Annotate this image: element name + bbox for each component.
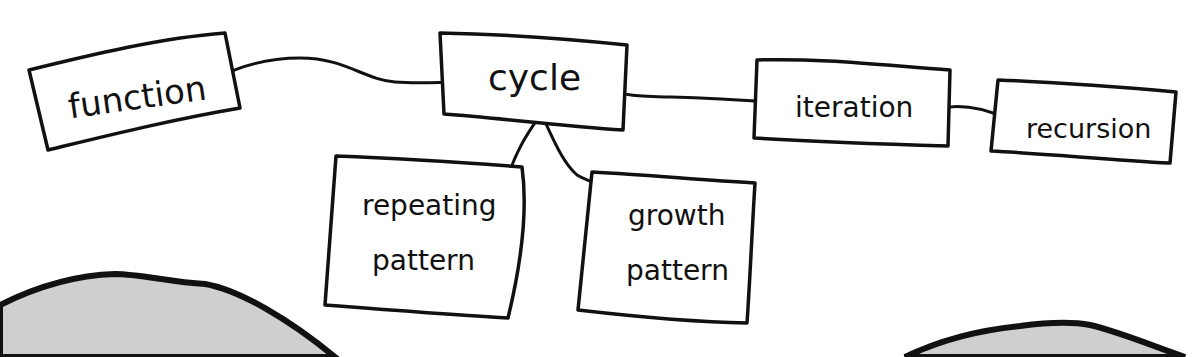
node-growth-pattern-label-line1: growth bbox=[628, 199, 725, 232]
node-repeating-pattern-label-line1: repeating bbox=[362, 189, 497, 222]
node-cycle-label: cycle bbox=[488, 57, 581, 98]
node-recursion-label: recursion bbox=[1026, 113, 1151, 144]
edge-cycle-iteration bbox=[608, 88, 770, 102]
right-hill-shape bbox=[905, 323, 1185, 357]
concept-map-canvas: function cycle iteration recursion repea… bbox=[0, 0, 1201, 357]
left-hill-shape bbox=[0, 274, 335, 357]
node-repeating-pattern-label-line2: pattern bbox=[372, 244, 475, 277]
node-growth-pattern-box bbox=[578, 172, 755, 323]
node-growth-pattern-label-line2: pattern bbox=[626, 254, 729, 287]
edge-function-cycle bbox=[217, 58, 458, 83]
node-repeating-pattern-box bbox=[325, 156, 524, 318]
node-iteration-label: iteration bbox=[795, 91, 913, 124]
